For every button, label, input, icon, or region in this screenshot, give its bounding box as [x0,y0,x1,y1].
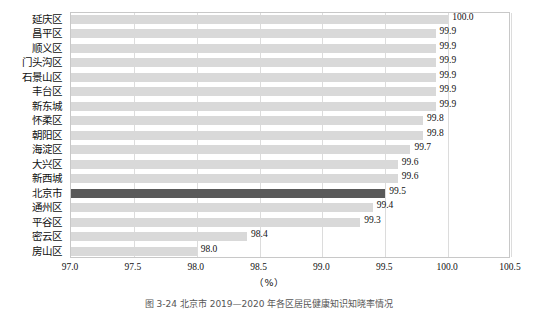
bar[interactable] [71,203,373,212]
bar-value-label: 99.9 [440,69,457,82]
x-tick-label: 97.0 [62,260,79,274]
bar[interactable] [71,247,197,256]
bar[interactable] [71,44,436,53]
bar-row[interactable]: 99.8 [71,129,509,143]
bar-row[interactable]: 98.0 [71,245,509,259]
x-tick-label: 100.5 [499,260,520,274]
bar-row[interactable]: 98.4 [71,230,509,244]
x-axis-tick-labels: 97.097.598.098.599.099.5100.0100.5 [70,260,510,274]
bar-value-label: 99.3 [364,214,381,227]
bar-row[interactable]: 99.6 [71,158,509,172]
category-label: 新东城 [32,99,62,113]
x-tick-label: 99.0 [313,260,330,274]
bar[interactable] [71,218,360,227]
category-label: 顺义区 [32,41,62,55]
x-tick-label: 98.5 [250,260,267,274]
bar-value-label: 99.5 [389,185,406,198]
bar-highlighted[interactable] [71,189,385,198]
bar[interactable] [71,102,436,111]
bar-value-label: 99.9 [440,83,457,96]
category-label: 丰台区 [32,84,62,98]
bar[interactable] [71,174,398,183]
category-label: 石景山区 [22,70,62,84]
category-label: 平谷区 [32,215,62,229]
category-label: 北京市 [32,186,62,200]
bar-value-label: 99.6 [402,170,419,183]
bar-value-label: 98.0 [201,243,218,256]
bar[interactable] [71,145,410,154]
figure-caption: 图 3-24 北京市 2019—2020 年各区居民健康知识知晓率情况 [0,297,538,310]
bar-value-label: 99.6 [402,156,419,169]
bar[interactable] [71,58,436,67]
bar-value-label: 99.9 [440,25,457,38]
bar-value-label: 99.9 [440,98,457,111]
x-axis-title: （%） [0,275,538,289]
category-label: 通州区 [32,200,62,214]
bar-value-label: 99.7 [414,141,431,154]
bar[interactable] [71,160,398,169]
bar-series: 100.099.999.999.999.999.999.999.899.899.… [71,13,509,257]
bar-row[interactable]: 99.3 [71,216,509,230]
category-label: 朝阳区 [32,128,62,142]
category-label: 新西城 [32,171,62,185]
bar[interactable] [71,131,423,140]
category-label: 怀柔区 [32,113,62,127]
bar-row[interactable]: 99.5 [71,187,509,201]
bar[interactable] [71,29,436,38]
x-tick-label: 98.0 [187,260,204,274]
bar[interactable] [71,87,436,96]
bar-value-label: 98.4 [251,228,268,241]
bar[interactable] [71,232,247,241]
category-label: 昌平区 [32,26,62,40]
category-label: 海淀区 [32,142,62,156]
category-label: 大兴区 [32,157,62,171]
x-tick-label: 99.5 [376,260,393,274]
category-label: 延庆区 [32,12,62,26]
category-label: 密云区 [32,229,62,243]
bar-value-label: 99.8 [427,127,444,140]
bar[interactable] [71,116,423,125]
x-tick-label: 100.0 [436,260,457,274]
bar-row[interactable]: 99.7 [71,143,509,157]
x-tick-label: 97.5 [125,260,142,274]
category-axis-labels: 延庆区昌平区顺义区门头沟区石景山区丰台区新东城怀柔区朝阳区海淀区大兴区新西城北京… [0,12,66,258]
bar[interactable] [71,73,436,82]
plot-area: 100.099.999.999.999.999.999.999.899.899.… [70,12,510,258]
figure-container: 延庆区昌平区顺义区门头沟区石景山区丰台区新东城怀柔区朝阳区海淀区大兴区新西城北京… [0,0,538,311]
bar-value-label: 100.0 [452,11,473,24]
bar-value-label: 99.9 [440,54,457,67]
bar-value-label: 99.4 [377,199,394,212]
category-label: 房山区 [32,244,62,258]
gridline [511,13,512,257]
bar-row[interactable]: 99.6 [71,172,509,186]
bar-row[interactable]: 99.4 [71,201,509,215]
bar[interactable] [71,15,448,24]
bar-value-label: 99.9 [440,40,457,53]
category-label: 门头沟区 [22,55,62,69]
bar-value-label: 99.8 [427,112,444,125]
